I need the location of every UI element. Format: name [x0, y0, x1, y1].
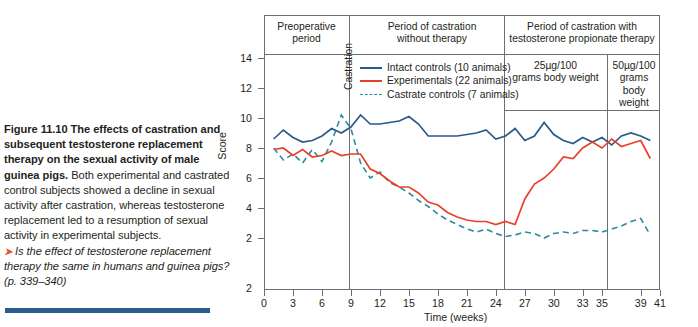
x-tick-3: [293, 290, 294, 296]
x-tick-label-6: 6: [319, 297, 325, 309]
x-tick-24: [496, 290, 497, 296]
x-tick-9: [351, 290, 352, 296]
x-tick-label-27: 27: [519, 297, 531, 309]
x-tick-label-12: 12: [374, 297, 386, 309]
x-tick-label-30: 30: [548, 297, 560, 309]
series-line-intact-controls: [274, 115, 651, 145]
x-tick-label-15: 15: [403, 297, 415, 309]
x-tick-label-24: 24: [490, 297, 502, 309]
x-tick-39: [641, 290, 642, 296]
x-tick-18: [438, 290, 439, 296]
x-tick-label-0: 0: [261, 297, 267, 309]
x-tick-label-21: 21: [461, 297, 473, 309]
x-tick-15: [409, 290, 410, 296]
x-tick-35: [602, 290, 603, 296]
x-tick-6: [322, 290, 323, 296]
x-tick-label-39: 39: [635, 297, 647, 309]
x-tick-label-3: 3: [290, 297, 296, 309]
chart-data-lines: [0, 0, 698, 327]
x-axis-title: Time (weeks): [424, 311, 487, 323]
series-line-experimentals: [274, 139, 651, 225]
x-tick-33: [583, 290, 584, 296]
series-line-castrate-controls: [274, 115, 651, 238]
x-tick-0: [264, 290, 265, 296]
chart-figure: Score 14 12 10 8 6 4 2 2 Preoperative pe…: [0, 0, 698, 327]
x-tick-label-35: 35: [596, 297, 608, 309]
x-tick-21: [467, 290, 468, 296]
x-tick-27: [525, 290, 526, 296]
x-tick-30: [554, 290, 555, 296]
x-tick-label-41: 41: [654, 297, 666, 309]
x-tick-41: [660, 290, 661, 296]
x-tick-label-9: 9: [348, 297, 354, 309]
x-tick-label-33: 33: [577, 297, 589, 309]
x-tick-12: [380, 290, 381, 296]
x-tick-label-18: 18: [432, 297, 444, 309]
